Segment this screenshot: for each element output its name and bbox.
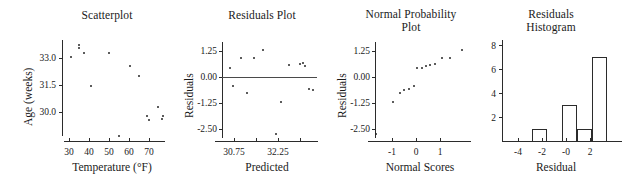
data-point: [148, 119, 150, 121]
data-point: [312, 89, 314, 91]
xtick-label: 0: [404, 148, 428, 158]
panel-residuals-histogram: Residuals Histogram 8 6 4 2 -4 -2 -0 2 R…: [480, 0, 642, 182]
panel-normal-probability-plot: Normal Probability Plot Residuals 1.25 0…: [324, 0, 480, 182]
histogram-bar: [577, 129, 592, 141]
axis-title-x-residual: Residual: [496, 161, 616, 173]
data-point: [240, 57, 242, 59]
ytick-label: 8: [484, 42, 496, 52]
xtick-label: -4: [507, 148, 529, 158]
ytick-label: 0.00: [189, 73, 217, 83]
panel-title-scatterplot: Scatterplot: [47, 9, 167, 22]
ytick-label: 0.00: [342, 73, 370, 83]
ytick-label: -1.25: [342, 99, 370, 109]
data-point: [375, 133, 377, 135]
ytick-label: -2.50: [189, 125, 217, 135]
data-point: [275, 133, 277, 135]
data-point: [302, 62, 304, 64]
panel-title-normal-probability-line1: Normal Probability: [346, 8, 476, 21]
data-point: [246, 92, 248, 94]
data-point: [425, 65, 427, 67]
data-point: [392, 101, 394, 103]
data-point: [83, 52, 85, 54]
axis-title-x-predicted: Predicted: [207, 161, 327, 173]
data-point: [304, 65, 306, 67]
panel-residuals-plot: Residuals Plot Residuals 1.25 0.00 -1.25…: [172, 0, 324, 182]
plot-area-residuals: [222, 42, 318, 141]
panel-title-residuals-plot: Residuals Plot: [202, 9, 322, 22]
data-point: [403, 89, 405, 91]
data-point: [90, 85, 92, 87]
ytick-label: 6: [484, 66, 496, 76]
panel-scatterplot: Scatterplot Age (weeks) 33.0 31.5 30.0 3…: [0, 0, 172, 182]
xtick-label: -2: [531, 148, 553, 158]
data-point: [413, 85, 415, 87]
data-point: [262, 49, 264, 51]
data-point: [399, 92, 401, 94]
ytick-label: 30.0: [30, 108, 56, 118]
diagnostic-plot-figure: Scatterplot Age (weeks) 33.0 31.5 30.0 3…: [0, 0, 642, 182]
data-point: [253, 57, 255, 59]
xtick-label: 32.25: [260, 148, 296, 158]
data-point: [429, 64, 431, 66]
data-point: [162, 115, 164, 117]
x-axis-line: [502, 141, 622, 142]
data-point: [138, 75, 140, 77]
data-point: [78, 44, 80, 46]
panel-title-histogram-line2: Histogram: [498, 21, 604, 34]
data-point: [232, 85, 234, 87]
data-point: [108, 52, 110, 54]
data-point: [146, 115, 148, 117]
xtick-label: 1: [428, 148, 452, 158]
data-point: [308, 88, 310, 90]
panel-title-histogram-line1: Residuals: [498, 8, 604, 21]
data-point: [280, 101, 282, 103]
x-axis-line: [368, 141, 471, 142]
data-point: [416, 67, 418, 69]
data-point: [299, 63, 301, 65]
data-point: [229, 67, 231, 69]
ytick-label: -1.25: [189, 99, 217, 109]
xtick-label: 70: [137, 148, 161, 158]
data-point: [161, 118, 163, 120]
data-point: [118, 135, 120, 137]
data-point: [129, 65, 131, 67]
ytick-label: -2.50: [342, 125, 370, 135]
data-point: [288, 64, 290, 66]
plot-area-scatterplot: [62, 40, 165, 141]
ytick-label: 31.5: [30, 81, 56, 91]
xtick-label: 2: [579, 148, 601, 158]
ytick-label: 4: [484, 90, 496, 100]
data-point: [78, 47, 80, 49]
data-point: [449, 57, 451, 59]
xtick-label: -0: [555, 148, 577, 158]
axis-title-x-normal-scores: Normal Scores: [358, 161, 482, 173]
ytick-label: 1.25: [342, 47, 370, 57]
plot-area-histogram: [502, 40, 622, 141]
xtick-label: -1: [380, 148, 404, 158]
data-point: [441, 57, 443, 59]
ytick-label: 2: [484, 114, 496, 124]
data-point: [157, 106, 159, 108]
histogram-bar: [562, 105, 577, 141]
data-point: [70, 56, 72, 58]
ytick-label: 1.25: [189, 47, 217, 57]
data-point: [408, 88, 410, 90]
axis-title-x-temperature: Temperature (°F): [52, 161, 172, 173]
histogram-bar: [592, 57, 607, 141]
data-point: [421, 67, 423, 69]
xtick-label: 30.75: [216, 148, 252, 158]
data-point: [434, 63, 436, 65]
x-axis-line: [215, 141, 318, 142]
panel-title-normal-probability-line2: Plot: [346, 21, 476, 34]
plot-area-normal-probability: [368, 42, 471, 141]
data-point: [461, 49, 463, 51]
histogram-bar: [532, 129, 547, 141]
ytick-label: 33.0: [30, 54, 56, 64]
